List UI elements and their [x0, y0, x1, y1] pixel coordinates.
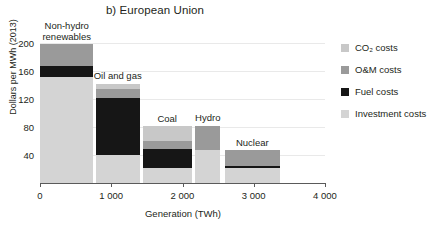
x-tick: [325, 183, 326, 187]
chart-legend: CO₂ costsO&M costsFuel costsInvestment c…: [341, 42, 439, 130]
bar-segment-om: [143, 141, 192, 149]
bar: [225, 150, 281, 183]
bar-segment-investment: [96, 155, 140, 183]
legend-label: Fuel costs: [355, 86, 398, 97]
bar-segment-om: [195, 126, 220, 151]
bar-segment-co2: [96, 84, 140, 90]
legend-item[interactable]: Investment costs: [341, 108, 439, 119]
legend-item[interactable]: CO₂ costs: [341, 42, 439, 53]
chart-figure: b) European Union Dollars per MWh (2013)…: [0, 0, 439, 232]
chart-title: b) European Union: [0, 4, 310, 16]
bar-segment-fuel: [96, 98, 140, 155]
x-tick-label: 4 000: [313, 190, 337, 201]
x-tick-label: 0: [37, 190, 42, 201]
bar-segment-investment: [225, 168, 281, 183]
legend-swatch-icon: [341, 66, 349, 74]
bar-segment-fuel: [225, 166, 281, 169]
bar-label: Coal: [157, 114, 177, 125]
x-tick: [254, 183, 255, 187]
bar-segment-fuel: [40, 66, 93, 77]
bar: [195, 126, 220, 183]
legend-label: Investment costs: [355, 108, 426, 119]
bar-segment-om: [40, 44, 93, 66]
x-tick-label: 2 000: [171, 190, 195, 201]
x-tick: [111, 183, 112, 187]
legend-item[interactable]: O&M costs: [341, 64, 439, 75]
bar-segment-fuel: [143, 149, 192, 167]
legend-swatch-icon: [341, 110, 349, 118]
x-tick-label: 3 000: [242, 190, 266, 201]
legend-swatch-icon: [341, 88, 349, 96]
legend-label: CO₂ costs: [355, 42, 398, 53]
y-tick-label: 160: [4, 66, 34, 77]
bar: [40, 44, 93, 183]
bar-label: Oil and gas: [94, 71, 142, 82]
y-tick-label: 40: [4, 150, 34, 161]
bar-segment-om: [96, 89, 140, 98]
bar-segment-investment: [195, 150, 220, 183]
bar-label: Nuclear: [236, 138, 269, 149]
bar-label: Non-hydro renewables: [42, 21, 91, 42]
legend-item[interactable]: Fuel costs: [341, 86, 439, 97]
x-tick: [40, 183, 41, 187]
bar-segment-om: [225, 150, 281, 165]
x-axis-title: Generation (TWh): [40, 208, 326, 219]
x-tick: [183, 183, 184, 187]
x-tick-label: 1 000: [99, 190, 123, 201]
bar: [143, 126, 192, 183]
y-tick-label: 80: [4, 122, 34, 133]
legend-swatch-icon: [341, 44, 349, 52]
bar-segment-investment: [40, 77, 93, 183]
legend-label: O&M costs: [355, 64, 401, 75]
bar-segment-co2: [143, 126, 192, 141]
bar-segment-investment: [143, 168, 192, 183]
y-tick-label: 120: [4, 94, 34, 105]
y-tick-label: 200: [4, 38, 34, 49]
bar-label: Hydro: [195, 113, 220, 124]
bar: [96, 84, 140, 183]
